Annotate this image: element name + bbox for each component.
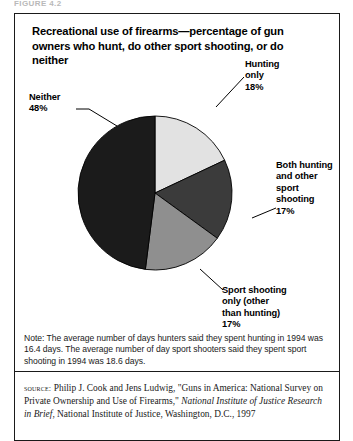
figure-number-strip: FIGURE 4.2 <box>14 0 134 7</box>
source-label: SOURCE: <box>24 384 51 393</box>
figure-divider <box>14 371 340 372</box>
source-text-part2: , National Institute of Justice, Washing… <box>52 409 255 419</box>
pie-slice-group <box>78 116 232 270</box>
slice-label-hunting-only: Hunting only 18% <box>245 59 325 93</box>
slice-label-neither: Neither 48% <box>29 92 93 115</box>
figure-source: SOURCE: Philip J. Cook and Jens Ludwig, … <box>24 382 324 420</box>
pie-slice-3 <box>78 116 155 269</box>
leader-line-sport-only <box>200 269 223 290</box>
leader-line-both <box>252 208 276 218</box>
slice-label-both-hunting-and-sport: Both hunting and other sport shooting 17… <box>276 160 348 217</box>
leader-line-hunting-only <box>216 77 244 107</box>
figure-note: Note: The average number of days hunters… <box>24 333 330 367</box>
slice-label-sport-shooting-only: Sport shooting only (other than hunting)… <box>222 285 314 331</box>
